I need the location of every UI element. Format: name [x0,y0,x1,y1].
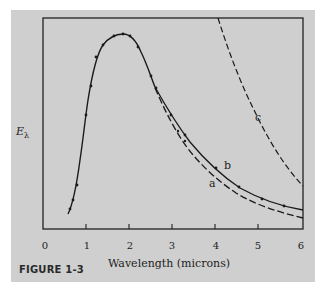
x-tick-2: 2 [127,240,133,251]
x-tick-6: 6 [298,240,304,251]
blackbody-chart: 0 1 2 3 4 5 6 b a c [0,0,320,292]
data-markers [69,33,286,211]
figure-caption: FIGURE 1-3 [19,264,84,275]
curve-label-a: a [209,177,216,190]
curve-label-c: c [255,111,261,124]
curve-a [155,88,303,218]
x-ticks [86,224,258,229]
y-axis-label-main: E [16,125,24,138]
x-tick-0: 0 [42,240,48,251]
y-axis-label: Eλ [16,125,29,140]
curve-measured [68,34,155,214]
y-axis-label-sub: λ [24,131,29,140]
plot-frame [43,18,303,229]
x-axis-label: Wavelength (microns) [108,257,230,270]
x-tick-4: 4 [213,240,219,251]
curve-label-b: b [224,159,231,172]
x-tick-labels: 0 1 2 3 4 5 6 [42,240,304,251]
x-tick-3: 3 [169,240,175,251]
curve-b [155,87,303,210]
x-tick-1: 1 [84,240,90,251]
x-tick-5: 5 [255,240,261,251]
